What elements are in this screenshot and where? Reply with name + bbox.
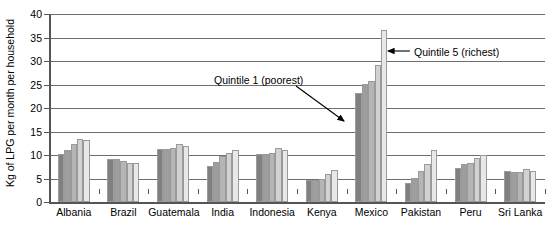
bar [331, 170, 337, 202]
y-axis-tick-label: 40 [18, 9, 42, 19]
y-axis-tick-label: 25 [18, 80, 42, 90]
bar [282, 150, 288, 202]
bar-group [148, 14, 198, 202]
bar-group [495, 14, 545, 202]
y-axis-tick-label: 5 [18, 174, 42, 184]
annotation-quintile-5-label: Quintile 5 (richest) [414, 46, 499, 58]
annotation-quintile-1-label: Quintile 1 (poorest) [214, 74, 303, 86]
y-axis-tick-label: 10 [18, 150, 42, 160]
y-axis-tick-label: 0 [18, 197, 42, 207]
x-axis-line [49, 202, 545, 204]
x-axis-category-label: Albania [49, 206, 99, 218]
x-axis-tick [545, 189, 546, 194]
bar [83, 140, 89, 202]
y-axis-title: Kg of LPG per month per household [2, 2, 18, 204]
x-axis-category-label: Kenya [297, 206, 347, 218]
plot-area [49, 14, 545, 202]
bar-group [247, 14, 297, 202]
bar [133, 163, 139, 202]
bar [183, 146, 189, 202]
x-axis-category-label: Peru [446, 206, 496, 218]
bar-group [396, 14, 446, 202]
bar-group [49, 14, 99, 202]
x-axis-category-label: Pakistan [396, 206, 446, 218]
y-axis-tick-label: 15 [18, 127, 42, 137]
y-axis-tick-label: 35 [18, 33, 42, 43]
x-axis-category-label: Guatemala [148, 206, 198, 218]
bar [381, 30, 387, 202]
x-axis-category-label: India [198, 206, 248, 218]
bar-group [446, 14, 496, 202]
bar-group [99, 14, 149, 202]
x-axis-category-label: Sri Lanka [495, 206, 545, 218]
y-axis-tick-label: 20 [18, 103, 42, 113]
x-axis-category-label: Indonesia [247, 206, 297, 218]
y-axis-tick-label: 30 [18, 56, 42, 66]
bar [431, 150, 437, 202]
bar-group [297, 14, 347, 202]
x-axis-category-label: Brazil [99, 206, 149, 218]
bar-group [198, 14, 248, 202]
bar-group [347, 14, 397, 202]
bar [480, 155, 486, 202]
lpg-consumption-bar-chart: Kg of LPG per month per household 051015… [0, 0, 554, 242]
x-axis-category-label: Mexico [347, 206, 397, 218]
bar [232, 150, 238, 202]
bar [530, 171, 536, 202]
